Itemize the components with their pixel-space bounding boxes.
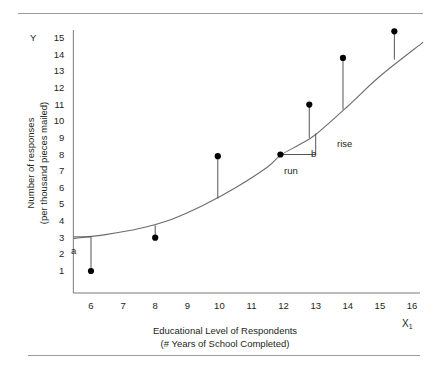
residual-lines [73, 31, 394, 271]
x-tick-label: 6 [79, 300, 103, 311]
y-axis-symbol: Y [30, 32, 36, 43]
x-axis-symbol-letter: X [402, 318, 409, 329]
x-axis-symbol-subscript: 1 [409, 323, 413, 330]
y-tick-label: 8 [42, 149, 64, 160]
x-tick-label: 15 [368, 300, 392, 311]
x-tick-label: 8 [143, 300, 167, 311]
x-tick-label: 7 [111, 300, 135, 311]
y-axis-title-line1: Number of responses [24, 63, 37, 263]
y-tick-label: 9 [42, 132, 64, 143]
y-tick-label: 12 [42, 82, 64, 93]
y-tick-label: 7 [42, 165, 64, 176]
scatter-plot-graphic [0, 0, 437, 369]
x-tick-label: 11 [240, 300, 264, 311]
x-tick-label: 10 [207, 300, 231, 311]
annotation-run: run [284, 165, 298, 176]
y-tick-label: 2 [42, 248, 64, 259]
y-tick-label: 6 [42, 182, 64, 193]
annotation-slope-b: b [311, 148, 316, 159]
x-tick-label: 9 [175, 300, 199, 311]
annotation-rise: rise [337, 138, 352, 149]
y-tick-label: 4 [42, 215, 64, 226]
y-tick-label: 15 [42, 32, 64, 43]
x-axis-title: Educational Level of Respondents (# Year… [110, 324, 340, 350]
x-tick-label: 16 [400, 300, 424, 311]
y-tick-label: 11 [42, 99, 64, 110]
plot-axes [73, 30, 420, 293]
x-axis-title-line2: (# Years of School Completed) [110, 337, 340, 350]
annotation-intercept-a: a [71, 245, 76, 256]
y-tick-label: 5 [42, 198, 64, 209]
y-tick-label: 10 [42, 115, 64, 126]
y-tick-label: 14 [42, 49, 64, 60]
x-axis-symbol: X1 [402, 318, 413, 330]
x-tick-label: 13 [304, 300, 328, 311]
x-tick-label: 14 [336, 300, 360, 311]
regression-curve [73, 42, 423, 238]
x-tick-label: 12 [272, 300, 296, 311]
chart-page: Y X1 Number of responses (per thousand p… [0, 0, 437, 369]
data-points [88, 28, 398, 274]
y-tick-label: 13 [42, 65, 64, 76]
x-axis-title-line1: Educational Level of Respondents [110, 324, 340, 337]
y-tick-label: 1 [42, 265, 64, 276]
y-tick-label: 3 [42, 232, 64, 243]
